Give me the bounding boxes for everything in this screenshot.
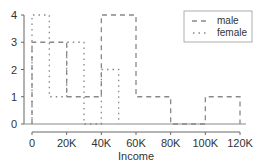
legend-female-label: female bbox=[217, 27, 247, 38]
income-step-histogram: 01234 020K40K60K80K100K120K male female … bbox=[0, 0, 256, 166]
series-female-line bbox=[32, 15, 119, 124]
x-ticks: 020K40K60K80K100K120K bbox=[29, 132, 254, 149]
legend-male-label: male bbox=[217, 15, 239, 26]
x-tick-label: 120K bbox=[227, 137, 253, 149]
x-tick-label: 100K bbox=[192, 137, 218, 149]
y-tick-label: 3 bbox=[11, 36, 17, 48]
y-tick-label: 2 bbox=[11, 64, 17, 76]
x-axis-title: Income bbox=[118, 150, 154, 162]
y-tick-label: 1 bbox=[11, 91, 17, 103]
x-tick-label: 60K bbox=[126, 137, 146, 149]
x-tick-label: 80K bbox=[161, 137, 181, 149]
y-tick-label: 0 bbox=[11, 118, 17, 130]
x-tick-label: 20K bbox=[57, 137, 77, 149]
x-tick-label: 0 bbox=[29, 137, 35, 149]
legend: male female bbox=[184, 11, 252, 42]
y-ticks: 01234 bbox=[11, 9, 24, 130]
x-tick-label: 40K bbox=[92, 137, 112, 149]
y-tick-label: 4 bbox=[11, 9, 17, 21]
